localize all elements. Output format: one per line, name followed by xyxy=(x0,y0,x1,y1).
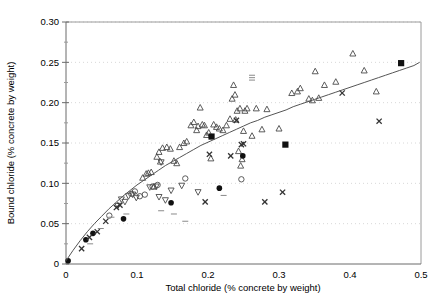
y-tick-label: 0.20 xyxy=(41,97,60,108)
marker-circle-filled xyxy=(217,185,223,191)
marker-circle-filled xyxy=(168,200,174,206)
x-axis-tick-labels: 00.10.20.30.40.5 xyxy=(63,269,427,280)
marker-circle-filled xyxy=(121,216,127,222)
y-axis-tick-labels: 00.050.100.150.200.250.30 xyxy=(41,16,60,269)
marker-square-filled xyxy=(208,133,214,139)
x-axis-title: Total chloride (% concrete by weight) xyxy=(165,282,320,293)
x-tick-label: 0.2 xyxy=(201,269,214,280)
y-tick-label: 0 xyxy=(54,258,59,269)
y-tick-label: 0.25 xyxy=(41,57,60,68)
marker-square-filled xyxy=(282,142,288,148)
x-tick-label: 0.3 xyxy=(272,269,285,280)
y-tick-label: 0.05 xyxy=(41,218,60,229)
x-tick-label: 0.1 xyxy=(130,269,143,280)
y-axis-title: Bound chloride (% concrete by weight) xyxy=(5,62,16,225)
y-tick-label: 0.10 xyxy=(41,178,60,189)
y-tick-label: 0.30 xyxy=(41,16,60,27)
chart-container: 00.050.100.150.200.250.30 00.10.20.30.40… xyxy=(0,0,440,301)
y-tick-label: 0.15 xyxy=(41,137,60,148)
marker-circle-filled xyxy=(240,153,246,159)
scatter-plot: 00.050.100.150.200.250.30 00.10.20.30.40… xyxy=(0,0,440,301)
x-tick-label: 0 xyxy=(63,269,68,280)
marker-square-filled xyxy=(398,60,404,66)
x-tick-label: 0.5 xyxy=(414,269,427,280)
x-tick-label: 0.4 xyxy=(343,269,356,280)
